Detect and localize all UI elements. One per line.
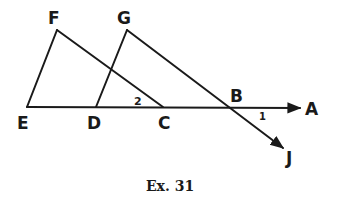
angle-1-label: 1	[259, 111, 266, 122]
segment-dg	[96, 30, 127, 107]
angle-2-label: 2	[134, 95, 142, 108]
segment-ef	[27, 30, 57, 107]
geometry-diagram: F G E D C B A J 2 1 Ex. 31	[0, 0, 341, 206]
label-j: J	[285, 148, 292, 168]
label-b: B	[230, 86, 243, 106]
ray-ea	[27, 107, 300, 108]
label-g: G	[117, 8, 131, 28]
label-c: C	[158, 113, 170, 133]
label-f: F	[48, 8, 60, 28]
label-d: D	[87, 113, 101, 133]
label-e: E	[17, 113, 29, 133]
segment-fc	[57, 30, 163, 107]
ray-gj	[127, 30, 283, 148]
label-a: A	[305, 99, 319, 119]
caption: Ex. 31	[146, 178, 194, 194]
